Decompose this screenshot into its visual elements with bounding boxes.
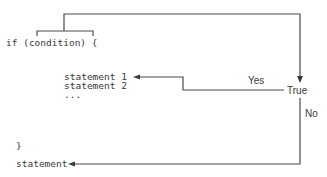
arrow-down-icon [297, 76, 303, 83]
close-brace-code: } [16, 141, 22, 150]
arrow-left-icon [68, 162, 75, 167]
no-label: No [305, 108, 318, 119]
ellipsis-code: ... [64, 90, 81, 99]
condition-to-decision-line [64, 14, 300, 78]
if-condition-code: if (condition) { [6, 38, 98, 47]
condition-bracket [37, 31, 93, 36]
arrow-left-icon [133, 75, 140, 80]
connector-lines [0, 0, 327, 177]
after-statement-code: statement [16, 159, 67, 168]
if-statement-flow-diagram: if (condition) { statement 1 statement 2… [0, 0, 327, 177]
yes-label: Yes [248, 75, 264, 86]
true-decision-label: True [287, 85, 307, 96]
no-branch-line [73, 98, 300, 164]
